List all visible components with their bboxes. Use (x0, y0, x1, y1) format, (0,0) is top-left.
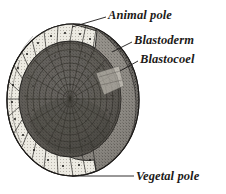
blastula-drawing (0, 0, 226, 194)
label-blastoderm: Blastoderm (134, 34, 194, 47)
label-animal-pole: Animal pole (108, 9, 172, 22)
label-blastocoel: Blastocoel (140, 53, 194, 66)
blastula-diagram: Animal pole Blastoderm Blastocoel Vegeta… (0, 0, 226, 194)
embryo-sphere (7, 22, 142, 178)
label-vegetal-pole: Vegetal pole (136, 170, 199, 183)
